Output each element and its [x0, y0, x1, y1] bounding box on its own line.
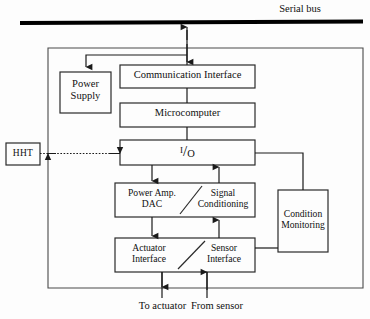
diagram-vector-layer: [0, 0, 370, 319]
actuator-sensor-box: [115, 238, 255, 272]
actuator-sensor-divider: [178, 241, 205, 269]
microcomputer-box: [120, 103, 255, 127]
condition-monitoring-box: [278, 190, 328, 252]
io-to-condition-monitoring-link: [255, 153, 303, 190]
power-supply-box: [60, 72, 111, 113]
hht-box: [6, 143, 40, 165]
power-amp-signal-box: [115, 183, 255, 217]
io-box: [120, 140, 255, 165]
communication-interface-box: [120, 65, 255, 88]
serial-bus-line: [20, 22, 363, 24]
block-diagram-canvas: Serial bus Power Supply Communication In…: [0, 0, 370, 319]
power-amp-signal-divider: [180, 186, 202, 214]
